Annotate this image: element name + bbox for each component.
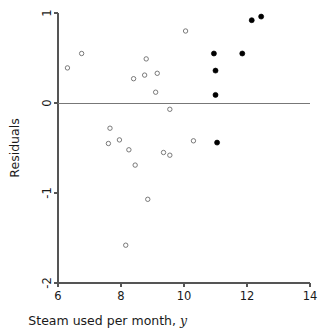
data-point-open [183,29,187,33]
data-point-open [65,66,69,70]
data-point-open [106,141,110,145]
data-point-open [146,197,150,201]
y-tick-label: 1 [40,9,54,16]
data-point-open [191,139,195,143]
data-point-filled [211,51,216,56]
data-point-open [131,77,135,81]
x-tick-label: 10 [177,289,192,303]
x-axis-title: Steam used per month, [28,313,176,328]
data-point-open [168,153,172,157]
data-point-filled [213,68,218,73]
y-axis-title: Residuals [7,118,22,177]
data-point-open [153,90,157,94]
data-point-open [168,107,172,111]
data-point-filled [213,92,218,97]
data-point-open [155,71,159,75]
y-tick-label: 0 [40,99,54,106]
x-axis-title-variable: y [179,313,188,328]
y-tick-label: -1 [40,187,54,198]
x-tick-label: 6 [54,289,61,303]
data-point-open [124,243,128,247]
data-point-filled [249,18,254,23]
x-tick-label: 8 [117,289,124,303]
y-tick-label: -2 [40,277,54,288]
data-point-open [142,73,146,77]
data-point-open [161,150,165,154]
data-point-open [117,138,121,142]
data-point-filled [215,140,220,145]
scatter-plot-canvas: 68101214 10-1-2 Residuals Steam used per… [0,0,321,334]
x-tick-label: 12 [240,289,255,303]
x-tick-label: 14 [303,289,318,303]
data-point-filled [259,14,264,19]
data-point-open [144,57,148,61]
data-point-open [108,126,112,130]
data-point-open [79,51,83,55]
data-point-open [133,163,137,167]
data-point-filled [240,51,245,56]
data-point-open [127,148,131,152]
residual-plot-figure: 68101214 10-1-2 Residuals Steam used per… [0,0,321,334]
